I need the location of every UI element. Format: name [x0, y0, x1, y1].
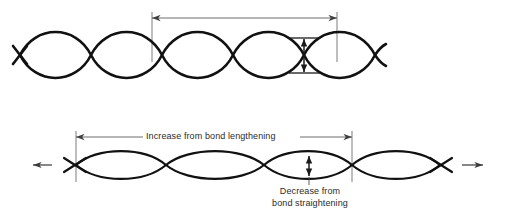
panel-unstretched-crimped-fiber: [13, 12, 386, 78]
diagram-canvas: [0, 0, 505, 213]
stretched-fiber-strand-upper: [76, 151, 440, 179]
fiber-crimp-diagram: Increase from bond lengthening Decrease …: [0, 0, 505, 213]
label-increase-from-bond-lengthening: Increase from bond lengthening: [143, 131, 279, 143]
label-decrease-line-1: Decrease from: [262, 186, 358, 198]
label-decrease-line-2: bond straightening: [262, 198, 358, 210]
stretched-fiber-strand-lower: [76, 151, 440, 179]
crimped-fiber-strand-lower: [20, 32, 386, 78]
label-decrease-from-bond-straightening: Decrease from bond straightening: [262, 186, 358, 209]
crimped-fiber-strand-upper: [20, 32, 386, 78]
